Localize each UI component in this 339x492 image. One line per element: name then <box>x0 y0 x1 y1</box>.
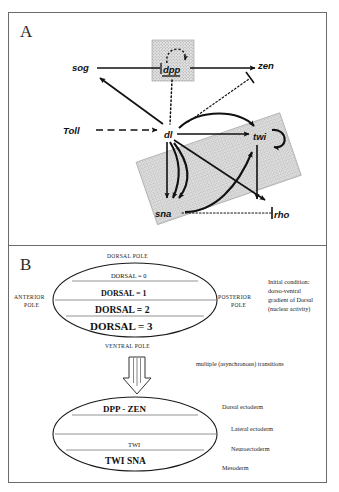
anterior-pole-label-line2: POLE <box>24 302 39 308</box>
initial-condition-line1: Initial condition: <box>268 278 310 285</box>
ventral-pole-label: VENTRAL POLE <box>105 343 150 349</box>
tissue-label-neuroectoderm: Neuroectoderm <box>231 445 270 452</box>
node-toll: Toll <box>63 125 80 136</box>
lower-band-gene-2: TWI <box>128 441 140 448</box>
band-dorsal-3: DORSAL = 3 <box>90 320 153 332</box>
band-dorsal-1: DORSAL = 1 <box>101 289 146 298</box>
figure-root: A B <box>0 0 339 492</box>
node-twi: twi <box>253 131 267 142</box>
initial-condition-line2: dorso-ventral <box>268 287 301 294</box>
posterior-pole-label-line2: POLE <box>231 302 246 308</box>
band-dorsal-2: DORSAL = 2 <box>95 304 150 315</box>
node-zen: zen <box>257 60 274 71</box>
edge-dpp-dl <box>170 80 172 124</box>
tissue-label-dorsal-ectoderm: Dorsal ectoderm <box>222 403 263 410</box>
panel-a-diagram: sog dpp zen Toll dl twi sna rho DORSAL P… <box>0 0 339 492</box>
dorsal-pole-label: DORSAL POLE <box>107 253 148 259</box>
anterior-pole-label-line1: ANTERIOR <box>14 294 45 300</box>
band-dorsal-0: DORSAL = 0 <box>111 272 146 279</box>
initial-condition-line3: gradient of Dorsal <box>268 296 313 303</box>
lower-band-gene-0: DPP - ZEN <box>103 404 147 414</box>
node-sog: sog <box>72 62 89 73</box>
initial-condition-line4: (nuclear activity) <box>268 305 310 313</box>
node-sna: sna <box>155 208 171 219</box>
transition-caption: multiple (asynchronous) transitions <box>196 360 284 368</box>
node-dpp: dpp <box>163 64 181 75</box>
tissue-label-mesoderm: Mesoderm <box>222 464 249 471</box>
lower-band-gene-3: TWI SNA <box>105 456 146 466</box>
tissue-label-lateral-ectoderm: Lateral ectoderm <box>231 425 273 432</box>
edge-dl-sog <box>100 78 163 124</box>
posterior-pole-label-line1: POSTERIOR <box>218 294 251 300</box>
node-dl: dl <box>164 129 173 140</box>
node-rho: rho <box>274 209 290 220</box>
transition-arrow-icon <box>123 357 151 394</box>
zen-inhibition-bar <box>246 72 254 83</box>
edge-twi-zen <box>188 79 249 122</box>
